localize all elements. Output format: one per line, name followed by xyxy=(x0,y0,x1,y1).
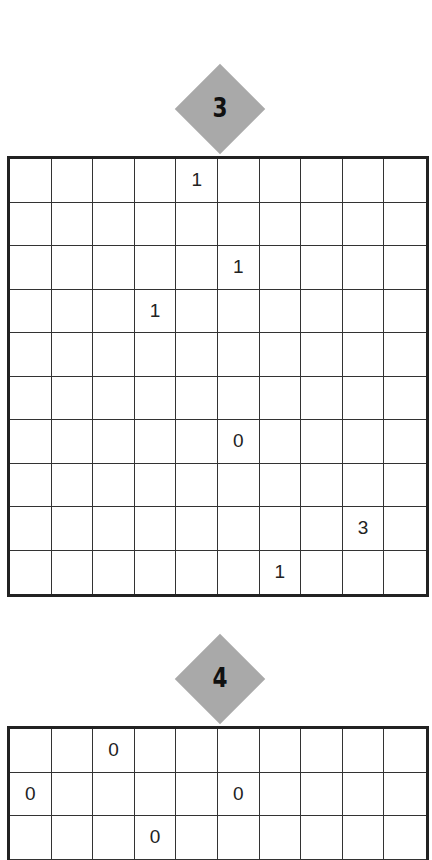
grid-cell[interactable] xyxy=(93,816,135,860)
grid-cell[interactable] xyxy=(10,551,52,595)
grid-cell[interactable] xyxy=(93,203,135,247)
grid-cell[interactable] xyxy=(260,377,302,421)
grid-cell[interactable] xyxy=(384,203,426,247)
grid-cell[interactable] xyxy=(218,729,260,773)
grid-cell[interactable] xyxy=(10,816,52,860)
grid-cell[interactable] xyxy=(135,507,177,551)
grid-cell[interactable] xyxy=(301,246,343,290)
grid-cell[interactable] xyxy=(52,333,94,377)
grid-cell[interactable] xyxy=(93,159,135,203)
grid-cell[interactable] xyxy=(384,816,426,860)
grid-cell[interactable] xyxy=(260,773,302,817)
grid-cell[interactable] xyxy=(260,290,302,334)
grid-cell[interactable] xyxy=(10,507,52,551)
grid-cell[interactable] xyxy=(301,377,343,421)
grid-cell[interactable] xyxy=(384,246,426,290)
grid-cell[interactable] xyxy=(135,773,177,817)
grid-cell[interactable] xyxy=(343,464,385,508)
grid-cell[interactable] xyxy=(218,290,260,334)
grid-cell[interactable] xyxy=(52,290,94,334)
grid-cell[interactable] xyxy=(301,290,343,334)
grid-cell[interactable] xyxy=(93,464,135,508)
grid-cell[interactable] xyxy=(384,507,426,551)
grid-cell[interactable] xyxy=(260,203,302,247)
grid-cell[interactable] xyxy=(218,551,260,595)
grid-cell[interactable] xyxy=(52,773,94,817)
grid-cell[interactable] xyxy=(93,246,135,290)
grid-cell[interactable] xyxy=(52,729,94,773)
grid-cell[interactable] xyxy=(301,551,343,595)
grid-cell[interactable] xyxy=(10,420,52,464)
grid-cell[interactable] xyxy=(343,377,385,421)
grid-cell[interactable] xyxy=(384,333,426,377)
grid-cell[interactable] xyxy=(384,464,426,508)
grid-cell[interactable] xyxy=(176,203,218,247)
grid-cell[interactable] xyxy=(301,333,343,377)
grid-cell[interactable] xyxy=(260,420,302,464)
grid-cell[interactable] xyxy=(343,816,385,860)
grid-cell[interactable] xyxy=(93,773,135,817)
grid-cell[interactable] xyxy=(343,333,385,377)
grid-cell[interactable] xyxy=(260,333,302,377)
grid-cell[interactable] xyxy=(218,333,260,377)
grid-cell[interactable] xyxy=(52,551,94,595)
grid-cell[interactable] xyxy=(135,464,177,508)
grid-cell[interactable] xyxy=(218,203,260,247)
grid-cell[interactable] xyxy=(10,246,52,290)
grid-cell[interactable]: 1 xyxy=(135,290,177,334)
grid-cell[interactable] xyxy=(176,333,218,377)
grid-cell[interactable] xyxy=(218,159,260,203)
grid-cell[interactable] xyxy=(93,551,135,595)
grid-cell[interactable] xyxy=(93,290,135,334)
grid-cell[interactable] xyxy=(301,729,343,773)
grid-cell[interactable] xyxy=(343,551,385,595)
grid-cell[interactable] xyxy=(384,551,426,595)
grid-cell[interactable] xyxy=(301,816,343,860)
grid-cell[interactable] xyxy=(52,159,94,203)
grid-cell[interactable] xyxy=(218,507,260,551)
grid-cell[interactable] xyxy=(93,507,135,551)
grid-cell[interactable] xyxy=(93,420,135,464)
grid-cell[interactable]: 0 xyxy=(135,816,177,860)
grid-cell[interactable] xyxy=(384,159,426,203)
grid-cell[interactable] xyxy=(135,159,177,203)
grid-cell[interactable] xyxy=(260,816,302,860)
grid-cell[interactable] xyxy=(135,420,177,464)
grid-cell[interactable] xyxy=(176,290,218,334)
grid-cell[interactable] xyxy=(343,246,385,290)
grid-cell[interactable] xyxy=(52,816,94,860)
grid-cell[interactable] xyxy=(218,377,260,421)
grid-cell[interactable] xyxy=(301,464,343,508)
grid-cell[interactable] xyxy=(135,729,177,773)
grid-cell[interactable] xyxy=(301,773,343,817)
grid-cell[interactable]: 0 xyxy=(10,773,52,817)
grid-cell[interactable] xyxy=(93,333,135,377)
grid-cell[interactable] xyxy=(260,507,302,551)
grid-cell[interactable] xyxy=(52,203,94,247)
grid-cell[interactable] xyxy=(176,507,218,551)
grid-cell[interactable]: 3 xyxy=(343,507,385,551)
grid-cell[interactable] xyxy=(135,203,177,247)
grid-cell[interactable] xyxy=(52,246,94,290)
grid-cell[interactable] xyxy=(218,464,260,508)
grid-cell[interactable] xyxy=(343,159,385,203)
grid-cell[interactable] xyxy=(343,290,385,334)
grid-cell[interactable] xyxy=(176,246,218,290)
grid-cell[interactable] xyxy=(260,729,302,773)
grid-cell[interactable] xyxy=(176,420,218,464)
grid-cell[interactable]: 1 xyxy=(260,551,302,595)
grid-cell[interactable] xyxy=(10,729,52,773)
grid-cell[interactable] xyxy=(260,246,302,290)
grid-cell[interactable] xyxy=(176,773,218,817)
grid-cell[interactable] xyxy=(135,333,177,377)
grid-cell[interactable] xyxy=(52,377,94,421)
grid-cell[interactable] xyxy=(176,464,218,508)
grid-cell[interactable] xyxy=(176,729,218,773)
grid-cell[interactable] xyxy=(10,333,52,377)
grid-cell[interactable] xyxy=(343,729,385,773)
grid-cell[interactable] xyxy=(135,246,177,290)
grid-cell[interactable]: 0 xyxy=(218,773,260,817)
grid-cell[interactable] xyxy=(52,507,94,551)
grid-cell[interactable] xyxy=(10,464,52,508)
grid-cell[interactable] xyxy=(93,377,135,421)
